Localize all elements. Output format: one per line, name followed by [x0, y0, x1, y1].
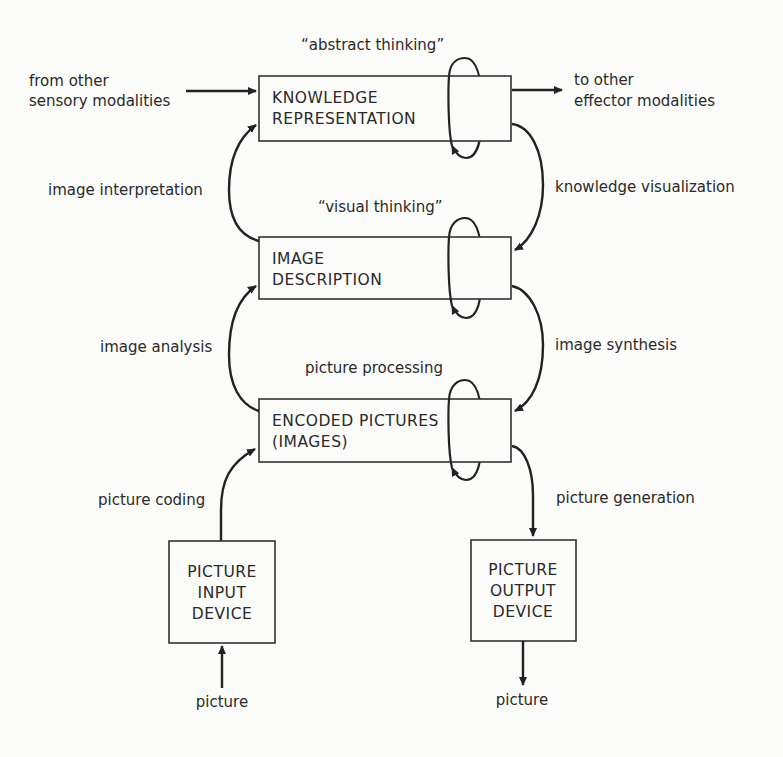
label-picture-input: picture	[196, 693, 248, 711]
image-processing-levels-diagram: KNOWLEDGE REPRESENTATION IMAGE DESCRIPTI…	[0, 0, 783, 757]
label-effector-modalities: effector modalities	[574, 92, 715, 110]
encoded-pictures-box: ENCODED PICTURES (IMAGES)	[259, 399, 511, 462]
label-sensory-modalities: sensory modalities	[29, 92, 170, 110]
label-image-analysis: image analysis	[100, 338, 212, 356]
image-analysis-arrow-icon	[229, 286, 259, 411]
output-device-line2: OUTPUT	[490, 582, 556, 600]
picture-generation-arrow-icon	[512, 446, 533, 536]
label-to-other: to other	[574, 71, 635, 89]
label-knowledge-visualization: knowledge visualization	[555, 178, 735, 196]
label-picture-output: picture	[496, 691, 548, 709]
output-device-line1: PICTURE	[488, 561, 558, 579]
image-description-box: IMAGE DESCRIPTION	[259, 237, 511, 299]
knowledge-box-line2: REPRESENTATION	[272, 110, 416, 128]
label-image-interpretation: image interpretation	[48, 181, 203, 199]
knowledge-box-line1: KNOWLEDGE	[272, 89, 378, 107]
input-device-line2: INPUT	[198, 584, 247, 602]
label-picture-processing: picture processing	[305, 359, 443, 377]
label-picture-coding: picture coding	[98, 491, 205, 509]
input-device-line1: PICTURE	[187, 563, 257, 581]
encoded-box-line1: ENCODED PICTURES	[272, 412, 439, 430]
description-box-line2: DESCRIPTION	[272, 271, 382, 289]
label-abstract-thinking: “abstract thinking”	[301, 36, 444, 54]
picture-input-device-box: PICTURE INPUT DEVICE	[169, 541, 275, 643]
label-image-synthesis: image synthesis	[555, 336, 677, 354]
encoded-box-line2: (IMAGES)	[272, 433, 348, 451]
output-device-line3: DEVICE	[493, 603, 554, 621]
picture-coding-arrow-icon	[221, 449, 255, 541]
image-interpretation-arrow-icon	[229, 125, 259, 241]
knowledge-representation-box: KNOWLEDGE REPRESENTATION	[259, 76, 511, 141]
label-from-other: from other	[29, 72, 109, 90]
description-box-line1: IMAGE	[272, 250, 325, 268]
picture-output-device-box: PICTURE OUTPUT DEVICE	[471, 540, 576, 641]
knowledge-visualization-arrow-icon	[512, 124, 543, 250]
label-picture-generation: picture generation	[556, 489, 695, 507]
input-device-line3: DEVICE	[192, 605, 253, 623]
label-visual-thinking: “visual thinking”	[318, 198, 442, 216]
diagram-canvas: KNOWLEDGE REPRESENTATION IMAGE DESCRIPTI…	[0, 0, 783, 757]
image-synthesis-arrow-icon	[512, 286, 543, 411]
